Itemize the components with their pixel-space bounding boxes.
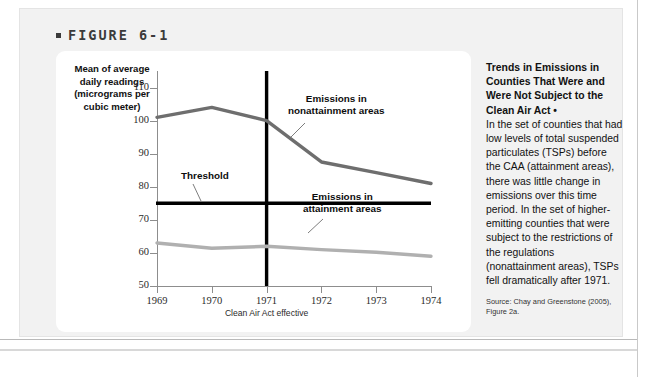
x-tick [157,286,158,293]
x-tick [267,286,268,293]
y-tick [150,253,157,254]
y-tick-label: 70 [109,213,149,224]
x-tick [212,286,213,293]
y-tick-label: 100 [109,114,149,125]
threshold-leader-line [193,184,201,201]
book-page: FIGURE 6-1 Mean of average daily reading… [0,0,654,377]
y-tick-label: 50 [109,279,149,290]
y-tick [150,220,157,221]
y-tick [150,154,157,155]
nonattainment-leader-line [291,123,305,137]
y-tick [150,88,157,89]
chart-card: Mean of average daily readings (microgra… [56,51,471,332]
x-tick-label: 1969 [127,295,187,306]
figure-number-label: FIGURE 6-1 [56,27,169,43]
y-tick-label: 90 [109,147,149,158]
y-tick-label: 110 [109,81,149,92]
page-gutter-rule [637,0,638,377]
y-tick-label: 80 [109,180,149,191]
x-tick [376,286,377,293]
figure-description: Trends in Emissions in Counties That Wer… [486,61,624,316]
x-tick [321,286,322,293]
y-tick [150,187,157,188]
figure-description-body: In the set of counties that had low leve… [486,118,624,288]
figure-description-title: Trends in Emissions in Counties That Wer… [486,61,624,118]
figure-source-note: Source: Chay and Greenstone (2005), Figu… [486,297,624,316]
y-tick [150,286,157,287]
attainment-leader-line [308,219,323,233]
nonattainment-series-label-line1: Emissions innonattainment areas [288,93,385,116]
y-tick [150,121,157,122]
nonattainment-series-label: Emissions innonattainment areas [288,93,385,117]
page-footer-rule [0,349,637,351]
y-tick-label: 60 [109,246,149,257]
x-axis-line [157,286,431,287]
attainment-series-label: Emissions inattainment areas [303,191,381,215]
x-tick [431,286,432,293]
square-bullet-icon [56,33,61,38]
clean-air-act-annotation: Clean Air Act effective [217,308,317,319]
figure-number-text: FIGURE 6-1 [68,27,169,43]
x-tick-label: 1974 [401,295,461,306]
series-line-attainment [157,243,431,256]
plot-area: 110 100 90 80 70 60 50 1969 1970 [157,71,431,286]
x-tick-label: 1970 [182,295,242,306]
x-tick-label: 1972 [291,295,351,306]
x-tick-label: 1971 [237,295,297,306]
x-tick-label: 1973 [346,295,406,306]
page-bottom-rule [0,339,637,340]
attainment-series-label-line1: Emissions inattainment areas [303,191,381,214]
figure-panel: FIGURE 6-1 Mean of average daily reading… [19,8,623,337]
threshold-label: Threshold [181,170,229,182]
